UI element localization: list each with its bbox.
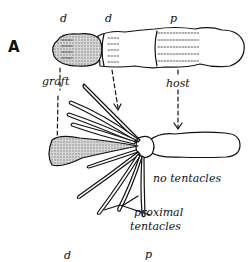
label-d-host: d bbox=[105, 13, 112, 24]
middle-arrow bbox=[112, 70, 118, 108]
label-proximal: proximal bbox=[134, 207, 183, 218]
label-graft: graft bbox=[42, 76, 69, 87]
host-body-bottom bbox=[150, 132, 240, 157]
label-host: host bbox=[166, 78, 190, 89]
panel-label: A bbox=[8, 40, 20, 55]
host-body-top bbox=[98, 28, 244, 68]
bottom-label-p: p bbox=[145, 249, 152, 260]
label-d-graft: d bbox=[60, 13, 67, 24]
label-p-host: p bbox=[170, 13, 177, 24]
label-no-tentacles: no tentacles bbox=[153, 173, 221, 184]
graft-piece bbox=[53, 34, 102, 67]
bottom-label-d: d bbox=[64, 250, 71, 261]
label-tentacles: tentacles bbox=[130, 221, 181, 232]
